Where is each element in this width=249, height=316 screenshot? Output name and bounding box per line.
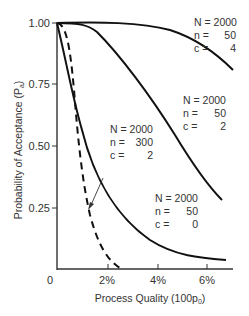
svg-text:n =: n = [110, 136, 125, 148]
arrowhead-icon [88, 202, 94, 210]
svg-text:2: 2 [147, 149, 153, 161]
svg-text:50: 50 [186, 205, 198, 217]
svg-text:0: 0 [192, 218, 198, 230]
y-tick-label: 0.75 [29, 78, 50, 90]
x-tick-label: 2% [99, 274, 115, 286]
annotation-n50-c2: N = 2000 n = 50 c = 2 [183, 94, 226, 132]
y-tick-label: 0.50 [29, 140, 50, 152]
annotation-n300-c2: N = 2000 n = 300 c = 2 [110, 123, 153, 161]
svg-text:2: 2 [220, 120, 226, 132]
y-tick-label: 1.00 [29, 17, 50, 29]
annotation-n50-c4: N = 2000 n = 50 c = 4 [194, 16, 237, 54]
svg-text:N = 2000: N = 2000 [155, 192, 198, 204]
svg-text:c =: c = [194, 42, 208, 54]
y-axis-title: Probability of Acceptance (Pa) [12, 81, 25, 220]
svg-text:n =: n = [194, 29, 209, 41]
oc-curve-chart: 1.00 0.75 0.50 0.25 0 2% 4% 6% Process Q… [0, 0, 249, 316]
svg-text:c =: c = [110, 149, 124, 161]
x-tick-label-origin: 0 [47, 274, 53, 286]
svg-text:300: 300 [135, 136, 153, 148]
x-tick-label: 6% [199, 274, 215, 286]
svg-text:n =: n = [155, 205, 170, 217]
annotation-arrow [91, 178, 103, 205]
x-tick-label: 4% [150, 274, 166, 286]
svg-text:c =: c = [155, 218, 169, 230]
y-tick-label: 0.25 [29, 202, 50, 214]
svg-text:4: 4 [230, 42, 236, 54]
svg-text:N = 2000: N = 2000 [110, 123, 153, 135]
svg-text:N = 2000: N = 2000 [183, 94, 226, 106]
svg-text:n =: n = [183, 107, 198, 119]
annotation-n50-c0: N = 2000 n = 50 c = 0 [155, 192, 198, 230]
svg-text:50: 50 [224, 29, 236, 41]
svg-text:N = 2000: N = 2000 [194, 16, 237, 28]
svg-text:c =: c = [183, 120, 197, 132]
x-axis-title: Process Quality (100p0) [95, 292, 206, 305]
svg-text:50: 50 [214, 107, 226, 119]
